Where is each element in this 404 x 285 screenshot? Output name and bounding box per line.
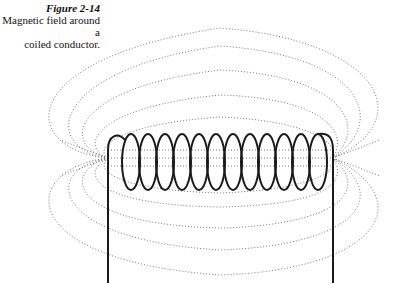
coil-field-diagram [0,0,404,285]
field-lines [49,28,380,275]
coil-wire [108,134,333,283]
